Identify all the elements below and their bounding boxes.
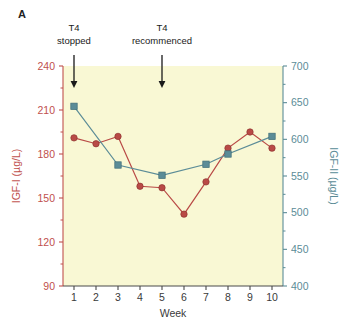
right-axis-title: IGF-II (µg/L) [328, 147, 340, 204]
plot-background [63, 66, 283, 286]
right-axis-tick-label: 550 [291, 170, 309, 182]
x-axis-tick-label: 5 [159, 291, 165, 303]
data-point-igf-ii [71, 103, 77, 109]
data-point-igf-i [93, 141, 99, 147]
x-axis-tick-label: 7 [203, 291, 209, 303]
left-axis-tick-label: 120 [37, 236, 55, 248]
x-axis-tick-label: 2 [93, 291, 99, 303]
data-point-igf-i [115, 133, 121, 139]
x-axis-tick-label: 3 [115, 291, 121, 303]
panel-label: A [18, 8, 26, 20]
data-point-igf-ii [159, 172, 165, 178]
x-axis-tick-label: 10 [266, 291, 278, 303]
data-point-igf-i [159, 185, 165, 191]
left-axis-tick-label: 240 [37, 60, 55, 72]
right-axis-tick-label: 600 [291, 133, 309, 145]
data-point-igf-ii [269, 133, 275, 139]
left-axis-tick-label: 180 [37, 148, 55, 160]
annotation-label-line2: stopped [57, 35, 91, 46]
annotation-label-line1: T4 [156, 22, 167, 33]
left-axis-tick-label: 150 [37, 192, 55, 204]
igf-line-chart: 90120150180210240IGF-I (µg/L)40045050055… [0, 0, 345, 325]
right-axis-tick-label: 450 [291, 243, 309, 255]
right-axis-tick-label: 700 [291, 60, 309, 72]
x-axis-tick-label: 9 [247, 291, 253, 303]
left-axis-tick-label: 90 [43, 280, 55, 292]
data-point-igf-ii [203, 161, 209, 167]
data-point-igf-i [269, 145, 275, 151]
data-point-igf-i [203, 179, 209, 185]
right-axis-tick-label: 650 [291, 96, 309, 108]
data-point-igf-i [181, 211, 187, 217]
left-axis-title: IGF-I (µg/L) [10, 149, 22, 203]
right-axis-tick-label: 500 [291, 206, 309, 218]
data-point-igf-ii [225, 151, 231, 157]
x-axis-tick-label: 8 [225, 291, 231, 303]
x-axis-tick-label: 6 [181, 291, 187, 303]
data-point-igf-i [225, 145, 231, 151]
left-axis-tick-label: 210 [37, 104, 55, 116]
data-point-igf-i [71, 135, 77, 141]
data-point-igf-i [247, 129, 253, 135]
annotation-label-line2: recommenced [132, 35, 192, 46]
data-point-igf-i [137, 183, 143, 189]
figure-panel-a: A 90120150180210240IGF-I (µg/L)400450500… [0, 0, 345, 325]
right-axis-tick-label: 400 [291, 280, 309, 292]
x-axis-title: Week [160, 307, 187, 319]
annotation-label-line1: T4 [68, 22, 79, 33]
x-axis-tick-label: 1 [71, 291, 77, 303]
data-point-igf-ii [115, 162, 121, 168]
x-axis-tick-label: 4 [137, 291, 143, 303]
